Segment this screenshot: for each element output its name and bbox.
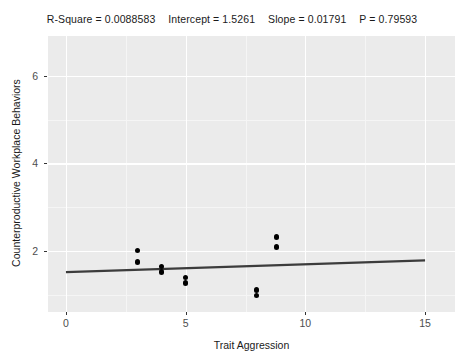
intercept-stat: Intercept = 1.5261 [168,13,255,25]
x-axis-tick [186,312,187,315]
regression-line [48,36,455,312]
slope-stat: Slope = 0.01791 [268,13,346,25]
x-axis-tick-label: 5 [166,318,206,329]
data-point [274,234,279,239]
data-point [254,293,259,298]
plot-panel [48,36,455,312]
regression-stats-header: R-Square = 0.0088583Intercept = 1.5261Sl… [0,13,464,25]
data-point [183,280,188,285]
x-axis-tick [425,312,426,315]
x-axis-title: Trait Aggression [48,339,455,351]
x-axis-tick-label: 0 [46,318,86,329]
scatter-plot-figure: R-Square = 0.0088583Intercept = 1.5261Sl… [0,0,464,364]
y-axis-tick [44,76,47,77]
x-axis-tick [305,312,306,315]
p-value-stat: P = 0.79593 [359,13,417,25]
x-axis-tick [66,312,67,315]
x-axis-tick-label: 10 [285,318,325,329]
y-axis-tick [44,163,47,164]
data-point [274,244,279,249]
y-axis-tick [44,251,47,252]
x-axis-tick-label: 15 [405,318,445,329]
y-axis-title: Counterproductive Workplace Behaviors [10,33,22,313]
data-point [254,287,259,292]
r-square-stat: R-Square = 0.0088583 [47,13,156,25]
